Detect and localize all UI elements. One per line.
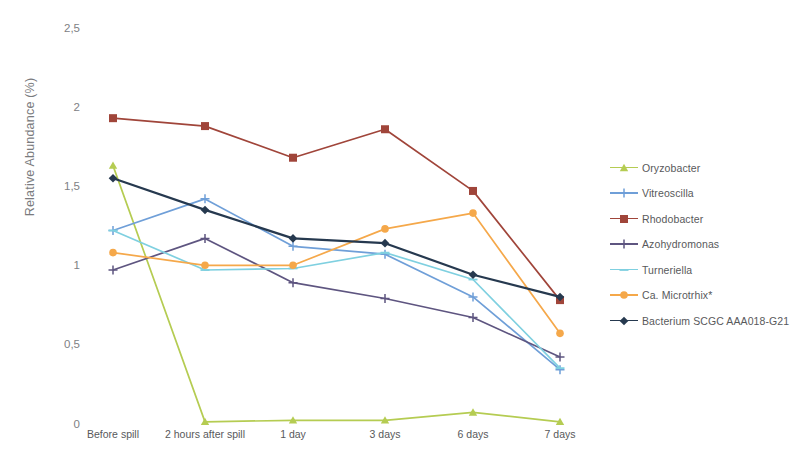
data-point-marker — [201, 122, 209, 130]
data-point-marker — [620, 316, 629, 325]
series-line — [113, 166, 560, 422]
series-vitreoscilla — [109, 194, 565, 374]
series-line — [113, 231, 560, 369]
series-line — [113, 118, 560, 300]
x-axis-tick-label: 7 days — [545, 428, 576, 440]
data-point-marker — [289, 262, 297, 270]
x-axis-tick-label: 6 days — [458, 428, 489, 440]
data-point-marker — [201, 262, 209, 270]
legend-item[interactable]: Azohydromonas — [610, 232, 800, 258]
data-point-marker — [201, 234, 210, 243]
legend-label: Vitreoscilla — [642, 187, 694, 199]
series-bacterium-scgc-aaa018-g21 — [109, 174, 565, 301]
legend-swatch-icon — [610, 162, 638, 174]
series-line — [113, 178, 560, 297]
legend-item[interactable]: Oryzobacter — [610, 155, 800, 181]
data-point-marker — [620, 189, 629, 198]
data-point-marker — [381, 125, 389, 133]
legend-swatch-icon — [610, 238, 638, 250]
data-point-marker — [109, 266, 118, 275]
x-axis-tick-label: 3 days — [370, 428, 401, 440]
data-point-marker — [556, 330, 564, 338]
data-point-marker — [556, 353, 565, 362]
series-line — [113, 238, 560, 357]
series-turneriella — [109, 230, 565, 368]
series-line — [113, 199, 560, 370]
legend-item[interactable]: Rhodobacter — [610, 206, 800, 232]
data-point-marker — [109, 114, 117, 122]
x-axis-tick-label: 1 day — [280, 428, 306, 440]
x-axis-tick-label: 2 hours after spill — [165, 428, 245, 440]
data-point-marker — [381, 225, 389, 233]
data-point-marker — [469, 209, 477, 217]
series-line — [113, 213, 560, 333]
relative-abundance-line-chart: Relative Abundance (%) 00,511,522,5 Befo… — [0, 0, 801, 470]
legend-item[interactable]: Turneriella — [610, 257, 800, 283]
data-point-marker — [469, 313, 478, 322]
data-point-marker — [620, 240, 629, 249]
data-point-marker — [289, 278, 298, 287]
data-point-marker — [289, 242, 298, 251]
series-ca-microtrhix — [109, 209, 564, 337]
data-point-marker — [620, 291, 628, 299]
legend-item[interactable]: Ca. Microtrhix* — [610, 283, 800, 309]
chart-legend: OryzobacterVitreoscillaRhodobacterAzohyd… — [610, 155, 800, 334]
legend-swatch-icon — [610, 289, 638, 301]
legend-swatch-icon — [610, 264, 638, 276]
legend-swatch-icon — [610, 187, 638, 199]
data-point-marker — [620, 164, 628, 171]
legend-label: Rhodobacter — [642, 213, 703, 225]
data-point-marker — [289, 154, 297, 162]
data-point-marker — [469, 187, 477, 195]
legend-item[interactable]: Vitreoscilla — [610, 181, 800, 207]
data-point-marker — [201, 194, 210, 203]
legend-label: Azohydromonas — [642, 238, 719, 250]
legend-swatch-icon — [610, 315, 638, 327]
data-point-marker — [381, 294, 390, 303]
data-point-marker — [620, 215, 628, 223]
data-point-marker — [109, 249, 117, 257]
legend-swatch-icon — [610, 213, 638, 225]
data-point-marker — [381, 239, 390, 248]
data-point-marker — [109, 161, 117, 168]
legend-label: Oryzobacter — [642, 162, 700, 174]
data-point-marker — [289, 234, 298, 243]
legend-item[interactable]: Bacterium SCGC AAA018-G21 — [610, 308, 800, 334]
legend-label: Ca. Microtrhix* — [642, 289, 712, 301]
legend-label: Turneriella — [642, 264, 692, 276]
x-axis-tick-label: Before spill — [87, 428, 139, 440]
data-point-marker — [201, 206, 210, 215]
legend-label: Bacterium SCGC AAA018-G21 — [642, 315, 789, 327]
